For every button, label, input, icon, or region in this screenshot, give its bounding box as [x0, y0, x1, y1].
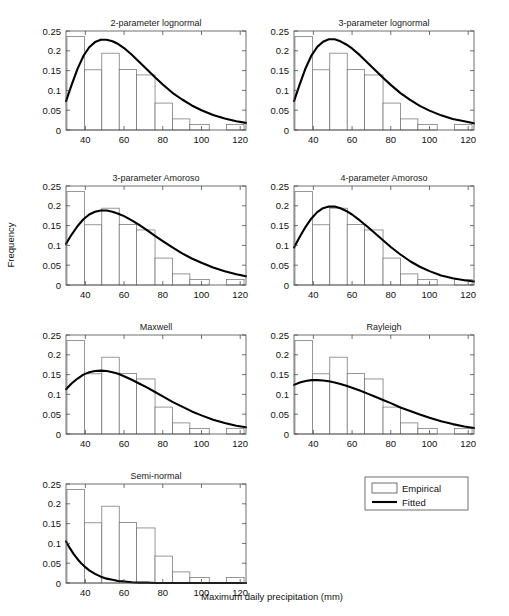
histogram-bar [155, 258, 172, 285]
x-tick-label: 40 [308, 438, 319, 449]
y-tick-label: 0 [284, 429, 289, 440]
histogram-bar [84, 374, 101, 434]
histogram-bar [347, 373, 364, 434]
y-tick-label: 0.05 [43, 260, 62, 271]
histogram-bar [155, 103, 172, 130]
y-tick-label: 0.1 [276, 85, 289, 96]
y-tick-label: 0.1 [48, 389, 61, 400]
y-tick-label: 0.2 [276, 200, 289, 211]
panel-title-2: 3-parameter lognormal [338, 18, 429, 28]
histogram-bar [455, 428, 472, 434]
histogram-bar [102, 506, 119, 583]
histogram-bar [119, 224, 136, 285]
y-tick-label: 0 [56, 429, 61, 440]
histogram-bar [155, 556, 172, 583]
y-axis-label: Frequency [5, 222, 16, 267]
panel-title-6: Rayleigh [366, 322, 401, 332]
histogram-bar [418, 428, 437, 434]
x-tick-label: 120 [460, 438, 476, 449]
histogram-bar [400, 423, 417, 434]
y-tick-label: 0.2 [48, 349, 61, 360]
y-tick-label: 0.25 [271, 26, 290, 37]
histogram-bar [365, 75, 383, 130]
y-tick-label: 0.25 [271, 181, 290, 192]
x-tick-label: 40 [308, 134, 319, 145]
x-tick-label: 120 [232, 134, 248, 145]
histogram-bar [455, 124, 472, 130]
histogram-bar [102, 208, 119, 285]
y-tick-label: 0.1 [276, 389, 289, 400]
histogram-bar [418, 124, 437, 130]
y-tick-label: 0.15 [43, 65, 62, 76]
histogram-bar [330, 357, 347, 434]
y-tick-label: 0 [284, 125, 289, 136]
y-tick-label: 0.15 [43, 518, 62, 529]
histogram-bar [84, 523, 101, 583]
y-tick-label: 0.1 [48, 240, 61, 251]
y-tick-label: 0.15 [271, 220, 290, 231]
y-tick-label: 0.05 [43, 409, 62, 420]
panel-title-7: Semi-normal [130, 471, 181, 481]
x-tick-label: 100 [194, 134, 210, 145]
x-tick-label: 60 [119, 289, 130, 300]
x-tick-label: 120 [232, 289, 248, 300]
legend-swatch-empirical [372, 483, 397, 493]
y-tick-label: 0.15 [271, 65, 290, 76]
histogram-bar [227, 428, 244, 434]
histogram-bar [119, 69, 136, 130]
x-tick-label: 100 [422, 438, 438, 449]
y-tick-label: 0.1 [276, 240, 289, 251]
legend-label-fitted: Fitted [402, 497, 426, 508]
y-tick-label: 0.2 [48, 200, 61, 211]
histogram-bar [312, 70, 329, 130]
histogram-bar [102, 53, 119, 130]
y-tick-label: 0.25 [43, 26, 62, 37]
x-tick-label: 100 [422, 289, 438, 300]
panel-title-4: 4-parameter Amoroso [340, 173, 427, 183]
x-tick-label: 40 [80, 134, 91, 145]
x-tick-label: 80 [385, 438, 396, 449]
y-tick-label: 0 [56, 280, 61, 291]
histogram-bar [383, 407, 400, 434]
x-tick-label: 100 [194, 438, 210, 449]
histogram-bar [400, 274, 417, 285]
x-tick-label: 60 [347, 134, 358, 145]
x-tick-label: 100 [422, 134, 438, 145]
histogram-bar [102, 357, 119, 434]
y-tick-label: 0.25 [43, 181, 62, 192]
x-tick-label: 80 [157, 134, 168, 145]
x-tick-label: 60 [119, 587, 130, 598]
histogram-bar [383, 103, 400, 130]
histogram-bar [400, 119, 417, 130]
panel-title-5: Maxwell [140, 322, 173, 332]
histogram-bar [137, 528, 155, 583]
histogram-bar [190, 428, 209, 434]
legend-label-empirical: Empirical [402, 483, 441, 494]
y-tick-label: 0 [56, 125, 61, 136]
distribution-fit-figure: 2-parameter lognormal40608010012000.050.… [0, 0, 509, 616]
histogram-bar [84, 225, 101, 285]
histogram-bar [172, 572, 189, 583]
y-tick-label: 0.05 [43, 558, 62, 569]
histogram-bar [418, 279, 437, 285]
y-tick-label: 0.05 [271, 105, 290, 116]
histogram-bar [312, 225, 329, 285]
panel-title-3: 3-parameter Amoroso [112, 173, 199, 183]
y-tick-label: 0.1 [48, 85, 61, 96]
x-tick-label: 40 [80, 289, 91, 300]
histogram-bar [190, 124, 209, 130]
x-tick-label: 60 [119, 438, 130, 449]
histogram-bar [119, 522, 136, 583]
chart-legend: Empirical Fitted [365, 477, 468, 510]
y-tick-label: 0.05 [271, 260, 290, 271]
histogram-bar [330, 208, 347, 285]
x-tick-label: 120 [232, 438, 248, 449]
x-tick-label: 80 [385, 289, 396, 300]
histogram-bar [84, 70, 101, 130]
y-tick-label: 0.05 [271, 409, 290, 420]
x-tick-label: 60 [347, 289, 358, 300]
histogram-bar [137, 230, 155, 285]
histogram-bar [312, 374, 329, 434]
y-tick-label: 0.2 [48, 45, 61, 56]
histogram-bar [172, 119, 189, 130]
